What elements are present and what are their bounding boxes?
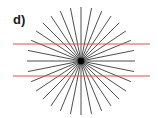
hering-illusion-figure [0,0,158,118]
center-dot [78,58,84,64]
